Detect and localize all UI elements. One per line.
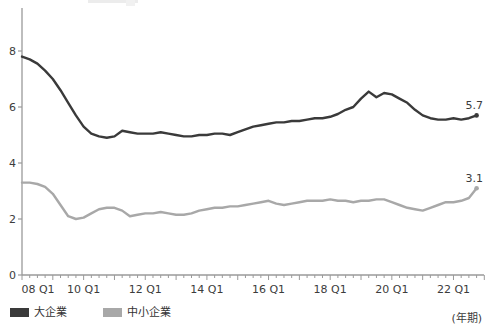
svg-text:08 Q1: 08 Q1 — [21, 283, 54, 296]
svg-text:3.1: 3.1 — [466, 172, 484, 185]
chart-legend: 大企業 中小企業 — [10, 307, 171, 318]
svg-text:18 Q1: 18 Q1 — [314, 283, 347, 296]
svg-text:14 Q1: 14 Q1 — [190, 283, 223, 296]
legend-label: 中小企業 — [127, 307, 171, 318]
svg-text:12 Q1: 12 Q1 — [129, 283, 162, 296]
svg-text:4: 4 — [9, 157, 16, 170]
svg-text:22 Q1: 22 Q1 — [437, 283, 470, 296]
svg-text:8: 8 — [9, 45, 16, 58]
svg-text:5.7: 5.7 — [466, 99, 484, 112]
large-enterprise-swatch — [10, 308, 29, 317]
chart-canvas: 0246808 Q110 Q112 Q114 Q116 Q118 Q120 Q1… — [0, 0, 486, 333]
legend-item-sme: 中小企業 — [103, 307, 171, 318]
legend-label: 大企業 — [34, 307, 67, 318]
svg-text:20 Q1: 20 Q1 — [375, 283, 408, 296]
svg-text:16 Q1: 16 Q1 — [252, 283, 285, 296]
svg-text:2: 2 — [9, 213, 16, 226]
x-axis-unit-label: (年期) — [451, 309, 482, 325]
sme-swatch — [103, 308, 122, 317]
legend-item-large-enterprise: 大企業 — [10, 307, 67, 318]
svg-text:10 Q1: 10 Q1 — [67, 283, 100, 296]
svg-text:6: 6 — [9, 101, 16, 114]
svg-text:0: 0 — [9, 269, 16, 282]
line-chart: 0246808 Q110 Q112 Q114 Q116 Q118 Q120 Q1… — [0, 0, 486, 333]
